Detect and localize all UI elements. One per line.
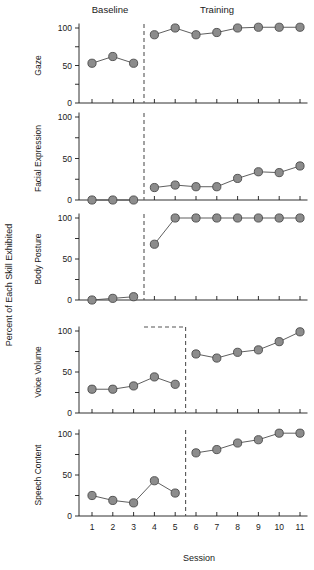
data-point xyxy=(171,24,179,32)
phase-label-training: Training xyxy=(200,4,234,15)
data-point xyxy=(109,496,117,504)
x-tick-label: 2 xyxy=(110,522,115,532)
data-point xyxy=(254,436,262,444)
panel-voice-volume: 050100Voice Volume xyxy=(33,326,307,418)
data-point xyxy=(296,328,304,336)
data-point xyxy=(275,214,283,222)
data-point xyxy=(234,439,242,447)
data-point xyxy=(192,449,200,457)
panel-group: 050100Gaze050100Facial Expression050100B… xyxy=(33,23,307,521)
data-point xyxy=(171,214,179,222)
data-point xyxy=(109,294,117,302)
data-point xyxy=(150,477,158,485)
panel-title-facial-expression: Facial Expression xyxy=(33,125,43,192)
y-tick-label: 100 xyxy=(58,213,72,223)
data-point xyxy=(213,354,221,362)
y-tick-label: 100 xyxy=(58,112,72,122)
data-point xyxy=(150,373,158,381)
x-tick-label: 6 xyxy=(194,522,199,532)
data-point xyxy=(109,52,117,60)
phase-divider-group xyxy=(144,24,186,516)
panel-axis-lines xyxy=(79,327,307,413)
panel-speech-content: 050100Speech Content xyxy=(33,429,307,521)
data-point xyxy=(192,214,200,222)
x-tick-label: 7 xyxy=(214,522,219,532)
data-point xyxy=(254,214,262,222)
data-point xyxy=(254,346,262,354)
data-point xyxy=(213,445,221,453)
data-point xyxy=(234,174,242,182)
multi-panel-chart: BaselineTraining Percent of Each Skill E… xyxy=(0,0,314,570)
y-tick-label: 50 xyxy=(63,254,73,264)
y-tick-label: 100 xyxy=(58,429,72,439)
series-line-training xyxy=(196,433,300,453)
x-tick-label: 11 xyxy=(296,522,305,532)
data-point xyxy=(234,24,242,32)
data-point xyxy=(213,28,221,36)
data-point xyxy=(171,380,179,388)
y-tick-label: 0 xyxy=(67,511,72,521)
y-tick-label: 0 xyxy=(67,408,72,418)
data-point xyxy=(275,23,283,31)
data-point xyxy=(150,31,158,39)
data-point xyxy=(88,59,96,67)
panel-body-posture: 050100Body Posture xyxy=(33,213,307,305)
x-tick-label: 9 xyxy=(256,522,261,532)
data-point xyxy=(109,385,117,393)
data-point xyxy=(130,196,138,204)
panel-gaze: 050100Gaze xyxy=(33,23,307,108)
phase-label-group: BaselineTraining xyxy=(92,4,234,15)
data-point xyxy=(275,169,283,177)
series-line-training xyxy=(196,332,300,358)
data-point xyxy=(130,499,138,507)
data-point xyxy=(213,183,221,191)
data-point xyxy=(130,293,138,301)
x-tick-label: 5 xyxy=(173,522,178,532)
data-point xyxy=(296,162,304,170)
panel-axis-lines xyxy=(79,214,307,300)
x-tick-label: 10 xyxy=(274,522,284,532)
data-point xyxy=(296,429,304,437)
data-point xyxy=(171,489,179,497)
y-axis-title: Percent of Each Skill Exhibited xyxy=(4,224,14,347)
panel-title-speech-content: Speech Content xyxy=(33,444,43,506)
panel-facial-expression: 050100Facial Expression xyxy=(33,112,307,205)
x-tick-label: 3 xyxy=(131,522,136,532)
y-tick-label: 100 xyxy=(58,23,72,33)
data-point xyxy=(296,214,304,222)
data-point xyxy=(275,338,283,346)
y-tick-label: 100 xyxy=(58,326,72,336)
data-point xyxy=(192,350,200,358)
data-point xyxy=(88,385,96,393)
x-axis-title: Session xyxy=(183,553,215,563)
data-point xyxy=(213,214,221,222)
y-tick-label: 50 xyxy=(63,367,73,377)
data-point xyxy=(234,348,242,356)
y-tick-label: 50 xyxy=(63,154,73,164)
data-point xyxy=(109,196,117,204)
data-point xyxy=(234,214,242,222)
y-tick-label: 0 xyxy=(67,98,72,108)
y-tick-label: 0 xyxy=(67,195,72,205)
phase-label-baseline: Baseline xyxy=(92,4,128,15)
x-axis-group: 1234567891011 xyxy=(90,522,305,532)
data-point xyxy=(88,491,96,499)
x-tick-label: 1 xyxy=(90,522,95,532)
panel-title-gaze: Gaze xyxy=(33,55,43,76)
data-point xyxy=(254,168,262,176)
data-point xyxy=(150,240,158,248)
data-point xyxy=(88,296,96,304)
data-point xyxy=(171,181,179,189)
x-tick-label: 4 xyxy=(152,522,157,532)
data-point xyxy=(192,31,200,39)
y-tick-label: 50 xyxy=(63,470,73,480)
data-point xyxy=(275,429,283,437)
x-tick-label: 8 xyxy=(235,522,240,532)
panel-title-body-posture: Body Posture xyxy=(33,233,43,284)
y-tick-label: 0 xyxy=(67,295,72,305)
y-tick-label: 50 xyxy=(63,61,73,71)
chart-svg: BaselineTraining Percent of Each Skill E… xyxy=(0,0,314,570)
panel-title-voice-volume: Voice Volume xyxy=(33,346,43,398)
data-point xyxy=(254,23,262,31)
data-point xyxy=(150,183,158,191)
